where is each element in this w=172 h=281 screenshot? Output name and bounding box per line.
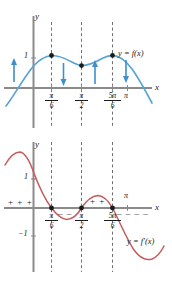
bottom-tick-label-pi: π (124, 192, 128, 200)
figure-root: y x 1 y = f(x) π 6 π 2 5π 6 π y x 1 −1 y… (0, 0, 172, 281)
top-tick-label-pi-over-6: π 6 (45, 92, 58, 109)
top-tick-pi2-den: 2 (75, 102, 88, 110)
sign-positive-middle: + + (90, 197, 105, 206)
sign-positive-left: + + + (8, 198, 33, 207)
top-tick-pi6-num: π (45, 92, 58, 100)
point-f-5pi-over-6 (110, 53, 115, 58)
point-fprime-zero-5pi-over-6 (110, 206, 115, 211)
top-tick-label-pi: π (124, 92, 128, 100)
bottom-tick-pi2-den: 2 (75, 222, 88, 230)
bottom-tick-pi6-den: 6 (45, 222, 58, 230)
point-f-pi-over-2 (79, 63, 84, 68)
bottom-x-axis-label: x (155, 203, 159, 212)
top-y-axis-label: y (35, 12, 39, 21)
bottom-tick-pi6-num: π (45, 212, 58, 220)
bottom-y-tick-neg-one-label: −1 (18, 230, 27, 238)
point-f-pi-over-6 (49, 53, 54, 58)
top-y-tick-one-label: 1 (24, 52, 28, 60)
bottom-y-axis-label: y (35, 140, 39, 149)
top-tick-pi6-den: 6 (45, 102, 58, 110)
bottom-panel (4, 142, 164, 272)
bottom-y-tick-one-label: 1 (24, 173, 28, 181)
point-fprime-zero-pi-over-6 (49, 206, 54, 211)
top-tick-label-5pi-over-6: 5π 6 (104, 92, 121, 109)
top-tick-label-pi-over-2: π 2 (75, 92, 88, 109)
top-panel (4, 16, 152, 128)
bottom-tick-pi2-num: π (75, 212, 88, 220)
top-tick-5pi6-den: 6 (104, 102, 121, 110)
sign-negative-right: – – – – (117, 209, 149, 218)
top-tick-pi2-num: π (75, 92, 88, 100)
f-function-label: y = f(x) (118, 49, 144, 58)
bottom-tick-label-pi-over-2: π 2 (75, 212, 88, 229)
point-fprime-zero-pi-over-2 (79, 206, 84, 211)
top-x-axis-label: x (155, 83, 159, 92)
bottom-tick-label-pi-over-6: π 6 (45, 212, 58, 229)
bottom-tick-5pi6-den: 6 (104, 222, 121, 230)
concavity-arrow-up-1 (11, 58, 17, 82)
f-prime-function-label: y = f′(x) (127, 237, 154, 246)
sign-negative-first: – – (58, 209, 72, 218)
top-tick-5pi6-num: 5π (104, 92, 121, 100)
concavity-arrow-down-1 (61, 63, 67, 86)
